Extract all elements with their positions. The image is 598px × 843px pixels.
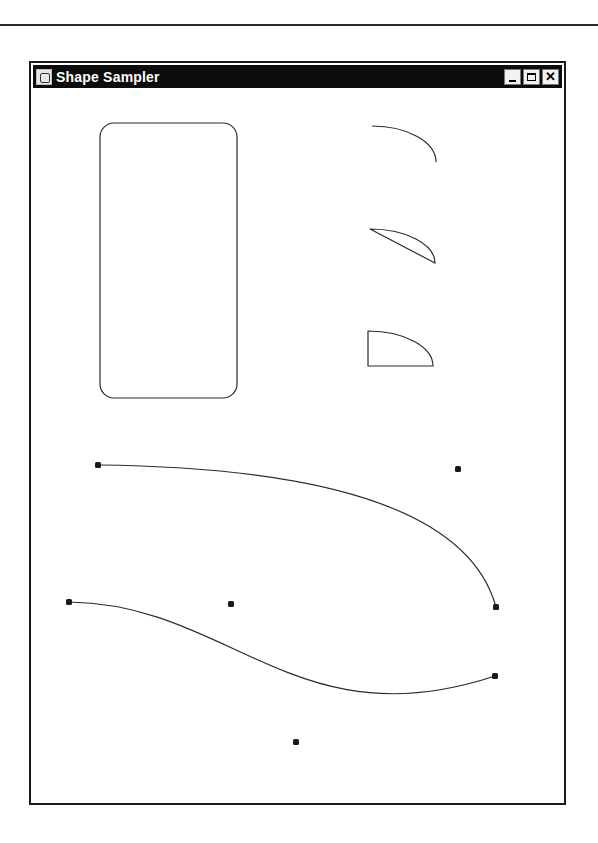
drawing-canvas xyxy=(0,0,598,843)
control-point-handle[interactable] xyxy=(493,604,499,610)
control-point-handle[interactable] xyxy=(492,673,498,679)
chord-arc-shape xyxy=(370,229,435,263)
control-point-handle[interactable] xyxy=(66,599,72,605)
cubic-curve-shape xyxy=(69,602,495,694)
rounded-rectangle-shape xyxy=(100,123,237,398)
quadratic-curve-shape xyxy=(98,465,496,607)
control-point-handle[interactable] xyxy=(455,466,461,472)
control-point-handle[interactable] xyxy=(95,462,101,468)
control-point-handle[interactable] xyxy=(228,601,234,607)
control-point-handle[interactable] xyxy=(293,739,299,745)
control-points xyxy=(66,462,499,745)
open-arc-shape xyxy=(372,126,436,162)
pie-arc-shape xyxy=(368,331,433,366)
